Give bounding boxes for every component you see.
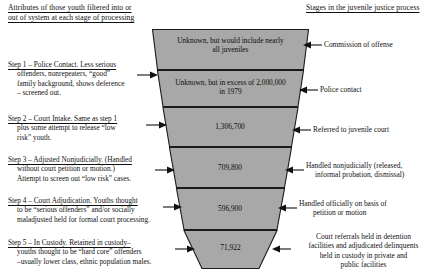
band-label-1-line-1: Unknown, but would include nearly [163,36,298,45]
diagram-page: Attributes of those youth filtered into … [0,0,435,279]
stage-label-6-line-4: public facilities [293,260,434,269]
band-label-3-line-1: 1,306,700 [166,122,294,131]
arrow-out-stage-6 [272,246,291,253]
stage-label-6: Court referrals held in detention facili… [293,232,434,270]
stage-label-1: Commission of offense [324,40,434,49]
step-1-line-3: family background, shows deference [8,79,148,88]
stage-label-6-line-1: Court referrals held in detention [293,232,434,241]
header-left: Attributes of those youth filtered into … [8,3,170,22]
stage-label-4: Handled nonjudicially (released, informa… [306,161,434,180]
step-1-line-1: Step 1 – Police Contact. Less serious [8,60,116,69]
step-5-line-1: Step 5 – In Custody. Retained in custody… [8,238,131,247]
step-5-line-3: –usually lower class, ethnic population … [8,257,183,266]
band-label-2: Unknown, but in excess of 2,000,000 in 1… [162,78,299,97]
header-left-line-1: Attributes of those youth filtered into … [8,3,170,13]
step-4-line-2: to be “serious offenders” and/or sociall… [8,205,178,214]
arrow-out-stage-1 [303,42,322,49]
stage-label-5-line-1: Handled officially on basis of [299,199,429,208]
band-label-1: Unknown, but would include nearly all ju… [163,36,298,55]
funnel-right-arrows [272,42,322,253]
step-2-line-2: plus some attempt to release “low [8,123,153,132]
band-label-4-line-1: 709,800 [172,163,288,172]
band-label-4: 709,800 [172,163,288,172]
step-3-line-2: without court petition or motion.) [8,164,170,173]
funnel-bands [153,30,309,269]
step-1-line-2: offenders, nonrepeaters, “good” [8,69,148,78]
step-5-description: Step 5 – In Custody. Retained in custody… [8,238,183,266]
stage-label-1-line-1: Commission of offense [324,40,434,49]
stage-label-3-line-1: Referred to juvenile court [313,125,431,134]
band-label-2-line-2: in 1979 [162,87,299,96]
band-label-2-line-1: Unknown, but in excess of 2,000,000 [162,78,299,87]
step-2-description: Step 2 – Court Intake. Same as step 1 pl… [8,114,153,142]
step-1-description: Step 1 – Police Contact. Less serious of… [8,60,148,97]
header-left-line-2: out of system at each stage of processin… [8,13,170,23]
stage-label-4-line-2: informal probation, dismissal) [306,170,434,179]
stage-label-5: Handled officially on basis of petition … [299,199,429,218]
band-label-3: 1,306,700 [166,122,294,131]
step-4-line-3: maladjusted held for formal court proces… [8,215,178,224]
step-2-line-3: risk” youth. [8,133,153,142]
step-1-line-4: – screened out. [8,88,148,97]
step-2-line-1: Step 2 – Court Intake. Same as step 1 [8,114,117,123]
step-4-description: Step 4 – Court Adjudication. Youths thou… [8,196,178,224]
step-3-line-3: Attempt to screen out “low risk” cases. [8,174,170,183]
step-3-line-1: Step 3 – Adjusted Nonjudicially. (Handle… [8,155,132,164]
stage-label-2: Police contact [320,85,430,94]
header-right: Stages in the juvenile justice process [306,3,434,13]
step-5-line-2: youths thought to be “hard core” offende… [8,247,183,256]
stage-label-4-line-1: Handled nonjudicially (released, [306,161,434,170]
step-4-line-1: Step 4 – Court Adjudication. Youths thou… [8,196,138,205]
arrow-out-stage-5 [278,205,297,212]
band-label-6: 71,922 [188,243,273,252]
arrow-out-stage-3 [292,127,311,134]
stage-label-2-line-1: Police contact [320,85,430,94]
stage-label-6-line-2: facilities and adjudicated delinquents [293,241,434,250]
stage-label-3: Referred to juvenile court [313,125,431,134]
stage-label-6-line-3: held in custody in private and [293,251,434,260]
band-label-5: 596,900 [180,204,280,213]
band-label-5-line-1: 596,900 [180,204,280,213]
arrow-out-stage-2 [299,87,318,94]
band-label-1-line-2: all juveniles [163,45,298,54]
step-3-description: Step 3 – Adjusted Nonjudicially. (Handle… [8,155,170,183]
band-label-6-line-1: 71,922 [188,243,273,252]
stage-label-5-line-2: petition or motion [299,208,429,217]
